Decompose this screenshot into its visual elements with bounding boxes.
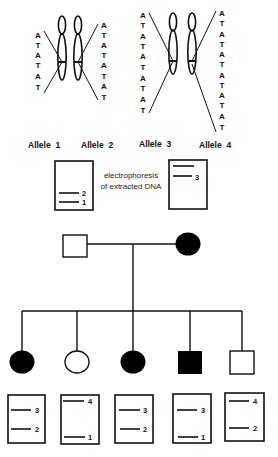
gel-mother: 3	[169, 160, 207, 209]
allele-1-label: Allele 1	[28, 140, 60, 150]
base: T	[102, 93, 107, 102]
base: T	[220, 123, 225, 132]
base: A	[101, 21, 107, 30]
allele-1-callout-top	[44, 31, 62, 62]
band-label: 1	[201, 433, 205, 442]
band-label: 2	[82, 189, 86, 198]
base: A	[35, 51, 41, 60]
band-label: 1	[88, 433, 92, 442]
mother-symbol-affected-female	[176, 233, 201, 256]
base: A	[101, 61, 107, 70]
base: T	[36, 61, 41, 70]
base: T	[102, 51, 107, 60]
band-label: 3	[35, 406, 39, 415]
base: A	[140, 11, 146, 20]
base: T	[220, 60, 225, 69]
allele-4-label: Allele 4	[199, 140, 231, 150]
band-label: 3	[143, 406, 147, 415]
chromosome-pair-alleles-3-4	[149, 11, 216, 132]
base: T	[220, 101, 225, 110]
base: T	[141, 63, 146, 72]
chromosome-pair-alleles-1-2	[44, 16, 98, 100]
child-4-gel: 3 1	[173, 394, 211, 443]
allele-2-sequence: A T A T A T A T	[101, 21, 107, 102]
base: A	[140, 52, 146, 61]
band-label: 2	[253, 424, 257, 433]
base: A	[219, 91, 225, 100]
child-1-affected-female	[10, 351, 35, 374]
allele-3-callout-bottom	[149, 61, 173, 113]
genetics-diagram: A T A T A T A T A T A T A T A	[0, 0, 278, 457]
gel-father: 2 1	[55, 161, 93, 210]
base: T	[141, 21, 146, 30]
base: T	[102, 72, 107, 81]
chromosome-1	[58, 16, 66, 80]
base: A	[219, 9, 225, 18]
band-label: 1	[82, 198, 86, 207]
allele-labels: Allele 1 Allele 2 Allele 3 Allele 4	[28, 139, 231, 150]
band-label: 4	[88, 397, 93, 406]
chromosome-3	[169, 13, 177, 74]
base: A	[140, 74, 146, 83]
base: T	[36, 41, 41, 50]
chromosome-2	[74, 16, 82, 80]
band-label: 3	[195, 173, 199, 182]
band-label: 3	[201, 406, 205, 415]
allele-4-sequence: A T A T A T A T A T A T	[219, 9, 225, 132]
base: T	[141, 42, 146, 51]
base: T	[36, 83, 41, 92]
base: A	[101, 82, 107, 91]
allele-2-callout-bottom	[78, 62, 98, 100]
electrophoresis-note: electrophoresis of extracted DNA	[101, 171, 163, 191]
allele-1-sequence: A T A T A T	[35, 31, 41, 92]
base: A	[35, 72, 41, 81]
child-5-unaffected-male	[230, 351, 254, 374]
base: T	[141, 84, 146, 93]
allele-3-sequence: A T A T A T A T A T	[140, 11, 146, 115]
band-label: 2	[143, 425, 147, 434]
child-3-gel: 3 2	[115, 395, 153, 443]
band-label: 4	[253, 397, 258, 406]
base: T	[220, 81, 225, 90]
child-1-gel: 3 2	[8, 395, 45, 443]
allele-3-label: Allele 3	[139, 139, 171, 149]
allele-2-label: Allele 2	[81, 140, 113, 150]
base: A	[35, 31, 41, 40]
child-5-gel: 4 2	[225, 393, 264, 441]
note-line-1: electrophoresis	[104, 171, 158, 180]
note-line-2: of extracted DNA	[101, 182, 163, 191]
child-4-affected-male	[178, 351, 202, 374]
base: A	[101, 41, 107, 50]
pedigree	[10, 233, 255, 375]
base: A	[140, 32, 146, 41]
base: T	[102, 31, 107, 40]
father-symbol-unaffected-male	[63, 235, 87, 257]
base: A	[219, 112, 225, 121]
base: T	[220, 19, 225, 28]
base: A	[140, 95, 146, 104]
child-3-affected-female	[121, 351, 146, 374]
base: T	[141, 106, 146, 115]
allele-4-callout-bottom	[192, 64, 216, 132]
child-2-unaffected-female	[65, 351, 89, 373]
base: T	[220, 40, 225, 49]
child-2-gel: 4 1	[61, 395, 99, 444]
base: A	[219, 30, 225, 39]
base: A	[219, 50, 225, 59]
base: A	[219, 71, 225, 80]
band-label: 2	[35, 425, 39, 434]
